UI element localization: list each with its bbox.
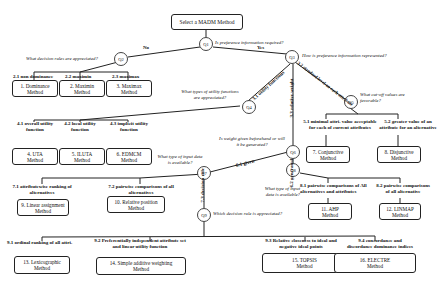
method-13-lexicographic: 13. LexicographicMethod xyxy=(14,256,70,274)
question-q2: Q2 xyxy=(114,52,128,66)
q5-text: What cut-off values are favorable? xyxy=(360,92,405,103)
branch-5-2-text: 5.2 greater value of an attribute for an… xyxy=(379,119,436,130)
branch-9-1: 9.1 ordinal ranking of all attri. xyxy=(7,240,72,246)
method-15-suffix: Method xyxy=(296,263,312,269)
method-4-uta: 4. UTAMethod xyxy=(12,148,58,165)
branch-9-3-text: 9.3 Relative closeness to ideal and nega… xyxy=(265,238,337,249)
question-q1-text: Is preference information required? xyxy=(215,40,283,46)
root-node-select-madm: Select a MADM Method xyxy=(171,14,243,30)
q1-id: Q1 xyxy=(203,42,209,47)
method-7-conjunctive: 7. ConjunctiveMethod xyxy=(306,146,350,163)
branch-5-2: 5.2 greater value of an attribute for an… xyxy=(378,119,438,131)
q8-text: What type of input data is available? xyxy=(265,186,300,197)
q3-id: Q3 xyxy=(289,55,295,60)
branch-7-2: 7.2 pairwise comparisons of all alternat… xyxy=(108,184,174,196)
method-12-suffix: Method xyxy=(392,212,408,218)
branch-7-1: 7.1 attributewise ranking of alternative… xyxy=(12,184,72,196)
question-q4-text: What types of utility functions are appr… xyxy=(180,89,240,101)
question-q6: Q6 xyxy=(286,145,300,159)
question-q8-text: What type of input data is available? xyxy=(258,186,300,198)
branch-7-1-text: 7.1 attributewise ranking of alternative… xyxy=(12,184,71,195)
question-q1: Q1 xyxy=(199,37,213,51)
method-5-suffix: Method xyxy=(74,157,90,163)
question-q4: Q4 xyxy=(242,100,256,114)
branch-4-1-text: 4.1 overall utility function xyxy=(17,121,53,132)
method-11-ahp: 11. AHPMethod xyxy=(308,203,352,220)
method-12-linmap: 12. LINMAPMethod xyxy=(379,203,421,220)
method-9-linear-assignment: 9. Linear assignmentMethod xyxy=(17,199,69,216)
method-3-suffix: Method xyxy=(121,89,137,95)
method-4-suffix: Method xyxy=(27,157,43,163)
branch-4-3: 4.3 implicit utility function xyxy=(106,121,152,133)
branch-9-3: 9.3 Relative closeness to ideal and nega… xyxy=(262,238,340,250)
method-2-suffix: Method xyxy=(74,89,90,95)
method-9-suffix: Method xyxy=(35,208,51,214)
question-q5-text: What cut-off values are favorable? xyxy=(360,92,408,104)
edge-label-no: No xyxy=(143,45,149,50)
branch-4-1: 4.1 overall utility function xyxy=(13,121,57,133)
method-16-suffix: Method xyxy=(367,263,383,269)
q9-id: Q9 xyxy=(201,213,207,218)
method-2-maximin: 2. MaximinMethod xyxy=(59,80,105,97)
branch-4-2: 4.2 local utility function xyxy=(58,121,102,133)
branch-4-3-text: 4.3 implicit utility function xyxy=(110,121,148,132)
branch-8-2-text: 8.2 pairwise comparisons of all alternat… xyxy=(376,183,430,194)
edge-label-7-3: 7.3 decision rule xyxy=(200,168,205,203)
branch-7-2-text: 7.2 pairwise comparisons of all alternat… xyxy=(108,184,174,195)
branch-9-4: 9.4 concordance and discordance dominanc… xyxy=(345,238,415,250)
q6-id: Q6 xyxy=(290,150,296,155)
method-11-suffix: Method xyxy=(322,212,338,218)
method-10-suffix: Method xyxy=(128,205,144,211)
method-16-electre: 16. ELECTREMethod xyxy=(334,253,416,273)
branch-4-2-text: 4.2 local utility function xyxy=(64,121,96,132)
method-7-suffix: Method xyxy=(320,155,336,161)
branch-5-1: 5.1 minimal attri. value acceptable for … xyxy=(300,119,380,131)
q6-text: Is weight given beforehand or will it be… xyxy=(219,136,285,147)
branch-9-2: 9.2 Preferentially independent attribute… xyxy=(92,238,188,250)
method-8-suffix: Method xyxy=(391,155,407,161)
method-13-suffix: Method xyxy=(34,265,50,271)
q2-id: Q2 xyxy=(118,57,124,62)
q7-text: What type of input data is available? xyxy=(157,154,202,165)
method-5-iluta: 5. ILUTAMethod xyxy=(59,148,105,165)
method-8-disjunctive: 8. DisjunctiveMethod xyxy=(377,146,421,163)
question-q3-text: How is preference information represente… xyxy=(302,53,387,59)
q4-text: What types of utility functions are appr… xyxy=(181,89,238,100)
edge-label-yes: Yes xyxy=(257,45,264,50)
question-q9-text: Which decision rule is appreciated? xyxy=(213,211,282,217)
branch-8-1-text: 8.1 pairwise comparisons of All alternat… xyxy=(300,183,367,194)
q4-id: Q4 xyxy=(246,105,252,110)
branch-9-4-text: 9.4 concordance and discordance dominanc… xyxy=(347,238,413,249)
question-q2-text: What decision rules are appreciated? xyxy=(26,56,98,62)
question-q6-text: Is weight given beforehand or will it be… xyxy=(218,136,286,148)
method-6-suffix: Method xyxy=(121,157,137,163)
method-6-edmcm: 6. EDMCMMethod xyxy=(106,148,152,165)
question-q9: Q9 xyxy=(197,208,211,222)
edge-label-6-2: 6.2 generated xyxy=(289,159,294,188)
branch-9-2-text: 9.2 Preferentially independent attribute… xyxy=(94,238,186,249)
method-1-suffix: Method xyxy=(27,89,43,95)
method-3-maximax: 3. MaximaxMethod xyxy=(106,80,152,97)
method-10-relative-position: 10. Relative positionMethod xyxy=(107,196,165,213)
question-q7-text: What type of input data is available? xyxy=(156,154,204,166)
root-label: Select a MADM Method xyxy=(180,19,235,25)
edge-label-3-3: 3.3 relative weight xyxy=(289,79,294,118)
method-14-suffix: Method xyxy=(133,266,149,272)
method-1-dominance: 1. DominanceMethod xyxy=(12,80,58,97)
branch-8-2: 8.2 pairwise comparisons of all alternat… xyxy=(375,183,431,195)
method-14-saw: 14. Simple additive weightingMethod xyxy=(96,257,186,275)
branch-5-1-text: 5.1 minimal attri. value acceptable for … xyxy=(303,119,377,130)
branch-8-1: 8.1 pairwise comparisons of All alternat… xyxy=(300,183,372,195)
